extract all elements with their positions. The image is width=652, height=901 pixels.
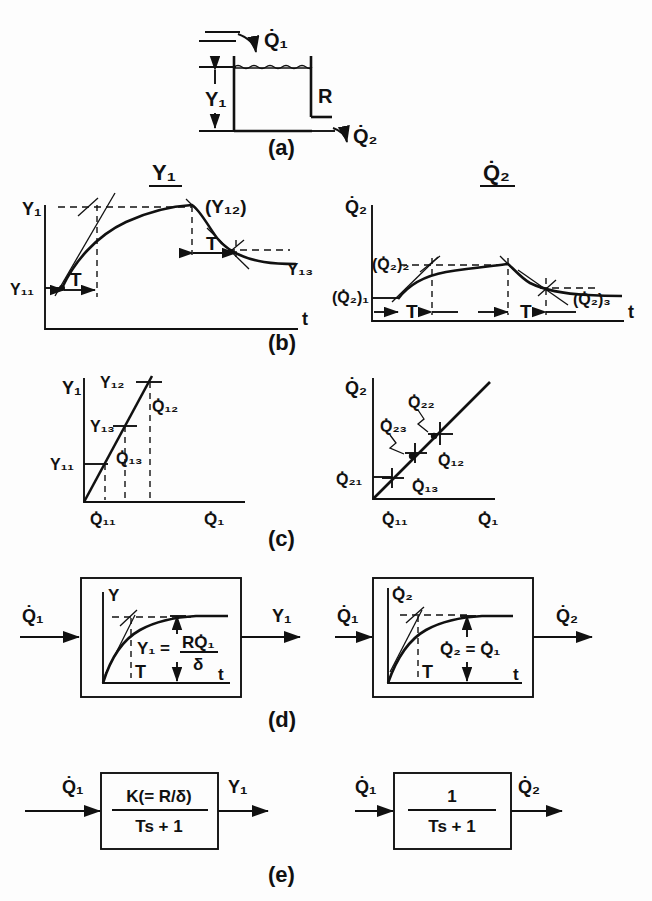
panel-e-left-block: Q̇₁ K(= R/δ) Ts + 1 Y₁ [25, 773, 268, 849]
panel-e-right-denominator: Ts + 1 [428, 817, 475, 836]
panel-c-left-point-1-label: Y₁₁ [50, 456, 74, 473]
panel-b-right-peak-tick [500, 256, 514, 270]
panel-a-outflow-label: Q̇₂ [353, 124, 377, 147]
panel-b-right-T2-label: T [520, 301, 532, 322]
panel-c-left-xtick-2: Q̇₁₃ [116, 450, 142, 467]
panel-b-left-tangent-1 [55, 193, 115, 296]
panel-e-right-numerator: 1 [447, 787, 456, 806]
panel-b-right-T1-label: T [406, 301, 418, 322]
panel-c-right-cross-2 [405, 443, 427, 463]
panel-c-caption: (c) [268, 526, 295, 551]
panel-b-left-initial-label: Y₁₁ [10, 281, 34, 298]
panel-b-right-ylabel: Q̇₂ [345, 196, 367, 217]
header-left-Y1: Y₁ [152, 160, 176, 185]
panel-c-right-ylabel: Q̇₂ [345, 377, 367, 398]
panel-c-left-ylabel: Y₁ [62, 378, 81, 398]
panel-b-right-initial-label: (Q̇₂)₁ [332, 289, 369, 306]
panel-c-right-xlabel: Q̇₁ [478, 510, 498, 529]
panel-d-left-equation-lhs: Y₁ = [137, 639, 170, 658]
panel-d-caption: (d) [268, 707, 296, 732]
panel-d-right-inner-ylabel: Q̇₂ [392, 585, 413, 604]
panel-b-right-final-label: (Q̇₂)₃ [573, 291, 611, 308]
panel-b-right-peak-label: (Q̇₂)₂ [372, 256, 409, 273]
panel-d-right-inner-xlabel: t [513, 665, 519, 684]
panel-b-left-xlabel: t [302, 309, 308, 329]
panel-c-left-point-3-label: Y₁₂ [100, 374, 124, 391]
panel-a-resistance-label: R [318, 85, 333, 107]
panel-e-left-numerator: K(= R/δ) [126, 787, 192, 806]
header-right-Q2: Q̇₂ [483, 160, 510, 185]
panel-c-left-line [84, 376, 152, 502]
panel-c-left-xlabel: Q̇₁ [204, 510, 224, 529]
inflow-arrow [238, 34, 256, 52]
panel-c-right-y-origin-label: Q̇₂₁ [336, 471, 363, 488]
panel-c-right-callout-Q23-label: Q̇₂₃ [380, 418, 407, 435]
panel-a-inflow-label: Q̇₁ [264, 28, 288, 51]
panel-d-left-inner-ylabel: Y [108, 586, 120, 605]
panel-b-right-xlabel: t [628, 302, 634, 322]
panel-b-left-T2-label: T [206, 233, 218, 254]
panel-c-right-callout-Q22-leader [418, 410, 428, 432]
panel-d-left-output-label: Y₁ [272, 606, 291, 626]
panel-b-left-ylabel: Y₁ [22, 199, 41, 219]
panel-d-right-tangent [390, 610, 422, 672]
panel-a-group: Q̇₁ R Y₁ Q̇₂ (a) [199, 28, 377, 160]
panel-e-caption: (e) [268, 862, 295, 887]
panel-e-left-output-label: Y₁ [228, 777, 247, 797]
panel-b-left-plot: Y₁ t Y₁₁ T (Y₁₂) T Y₁₃ [10, 193, 313, 330]
panel-e-left-denominator: Ts + 1 [135, 817, 182, 836]
panel-e-right-box [394, 773, 511, 849]
panel-c-right-x-origin-label: Q̇₁₁ [382, 511, 408, 528]
panel-b-left-final-label: Y₁₃ [287, 260, 313, 279]
outflow-arrow [333, 128, 347, 142]
panel-d-right-input-label: Q̇₁ [337, 605, 358, 626]
panel-a-level-label: Y₁ [205, 88, 227, 110]
panel-d-left-input-label: Q̇₁ [22, 605, 43, 626]
panel-d-right-T-label: T [422, 662, 433, 682]
panel-d-left-equation-numerator: RQ̇₁ [182, 633, 215, 652]
panel-d-right-equation: Q̇₂ = Q̇₁ [440, 640, 500, 659]
panel-b-left-T1-label: T [70, 269, 82, 290]
panel-d-left-block: Q̇₁ Y t T Y₁ = RQ̇₁ δ Y₁ [20, 578, 300, 697]
panel-d-left-cross-tick [120, 610, 137, 626]
panel-c-left-xtick-1: Q̇₁₁ [90, 511, 116, 528]
panel-c-right-point-Q22 [431, 433, 437, 439]
panel-d-left-T-label: T [135, 662, 146, 682]
panel-e-right-block: Q̇₁ 1 Ts + 1 Q̇₂ [355, 773, 562, 849]
panel-e-right-input-label: Q̇₁ [355, 776, 376, 797]
panel-d-right-block: Q̇₁ Q̇₂ t T Q̇₂ = Q̇₁ Q̇₂ [335, 578, 592, 697]
panel-e-left-input-label: Q̇₁ [62, 776, 83, 797]
panel-c-left-xtick-3: Q̇₁₂ [152, 398, 178, 415]
figure-canvas: Q̇₁ R Y₁ Q̇₂ (a) Y₁ Q̇₂ Y₁ t [0, 0, 652, 901]
panel-d-right-cross-tick [406, 607, 424, 623]
panel-c-right-point-Q13-label: Q̇₁₃ [412, 478, 438, 495]
panel-e-right-output-label: Q̇₂ [518, 776, 540, 797]
panel-c-right-callout-Q23-leader [390, 435, 404, 454]
panel-c-right-point-Q23 [409, 453, 415, 459]
panel-c-left-point-2-label: Y₁₃ [90, 418, 115, 435]
panel-c-left-plot: Y₁ Q̇₁ Y₁₁ Q̇₁₁ Y₁₃ Q̇₁₃ Y₁₂ Q̇₁₂ [50, 374, 245, 529]
panel-d-left-equation-denominator: δ [193, 655, 203, 674]
panel-c-right-callout-Q22-label: Q̇₂₂ [408, 394, 435, 411]
panel-b-right-cross-tick-1 [420, 256, 440, 272]
panel-b-left-peak-label: (Y₁₂) [205, 196, 247, 217]
panel-d-right-output-label: Q̇₂ [556, 605, 578, 626]
panel-d-left-inner-xlabel: t [218, 665, 224, 684]
panel-a-caption: (a) [268, 135, 295, 160]
panel-e-left-box [101, 773, 218, 849]
panel-c-right-plot: Q̇₂ Q̇₁ Q̇₂₁ Q̇₁₁ Q̇₂₃ Q̇₂₂ Q̇₁₃ [336, 377, 498, 529]
panel-c-right-point-Q12-label: Q̇₁₂ [438, 452, 464, 469]
panel-b-caption: (b) [268, 330, 296, 355]
column-headers: Y₁ Q̇₂ [149, 160, 515, 186]
panel-b-right-plot: Q̇₂ t (Q̇₂)₁ (Q̇₂)₂ T T (Q̇₂)₃ [332, 196, 634, 322]
